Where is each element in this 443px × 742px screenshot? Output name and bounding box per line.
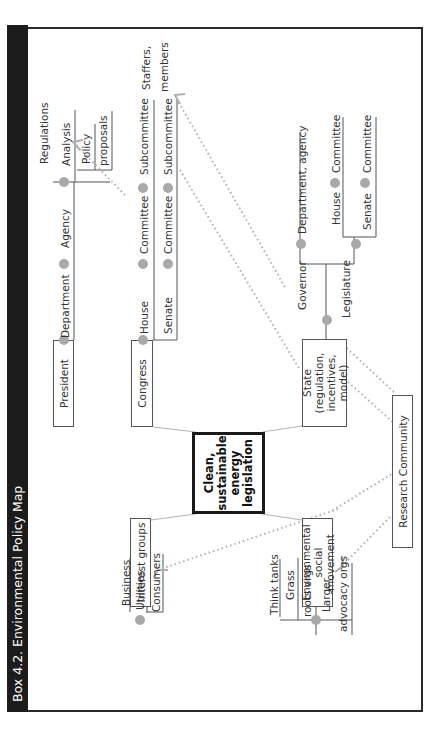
node-research-community: Research Community (392, 395, 413, 548)
label-department: Department (59, 274, 71, 338)
label-utilities: Utilities (134, 570, 146, 610)
label-governor: Governor (296, 261, 308, 310)
connector-dot (351, 239, 361, 249)
connector-dot (135, 615, 145, 625)
label-house: House (138, 301, 150, 334)
label-legislature: Legislature (340, 260, 352, 318)
node-congress: Congress (131, 340, 153, 427)
label-house-committee: Committee (138, 196, 150, 254)
policy-map-canvas: Box 4.2. Environmental Policy Map (0, 0, 443, 742)
connector-dot (163, 183, 173, 193)
center-node-clean-energy-legislation: Clean, sustainable energy legislation (192, 432, 265, 514)
label-state-house: House (330, 192, 342, 225)
connector-dot (360, 178, 370, 188)
node-president: President (53, 340, 74, 427)
label-senate-subcommittee: Subcommittee (162, 98, 174, 175)
label-consumers: Consumers (150, 553, 162, 612)
label-regulations: Regulations (38, 102, 50, 164)
connector-dot (138, 335, 148, 345)
label-roots-orgs: roots orgs (301, 564, 313, 617)
label-staffers: Staffers, (140, 46, 152, 90)
connector-dot (59, 177, 69, 187)
label-think-tanks: Think tanks (268, 554, 280, 615)
connector-dot (330, 178, 340, 188)
connector-dot (59, 259, 69, 269)
label-larger: Larger (320, 578, 332, 612)
label-members: members (158, 42, 170, 92)
connector-dot (138, 183, 148, 193)
diagram-title: Box 4.2. Environmental Policy Map (9, 486, 27, 702)
connector-dot (322, 315, 332, 325)
connector-dot (163, 259, 173, 269)
label-dept-agency: Department, agency (296, 126, 308, 234)
connector-dot (138, 259, 148, 269)
label-business: Business (120, 560, 132, 606)
label-advocacy-orgs: advocacy orgs (337, 556, 349, 632)
label-state-senate: Senate (361, 193, 373, 230)
label-state-house-committee: Committee (330, 115, 342, 173)
label-proposals: proposals (97, 115, 109, 166)
node-state: State (regulation, incentives, model) (302, 339, 347, 427)
label-policy: Policy (80, 134, 92, 164)
connector-dot (296, 239, 306, 249)
label-grass: Grass (284, 570, 296, 600)
label-analysis: Analysis (60, 123, 72, 166)
label-senate-committee: Committee (162, 196, 174, 254)
label-house-subcommittee: Subcommittee (138, 98, 150, 175)
label-state-senate-committee: Committee (361, 115, 373, 173)
label-senate: Senate (162, 297, 174, 334)
label-agency: Agency (59, 209, 71, 248)
